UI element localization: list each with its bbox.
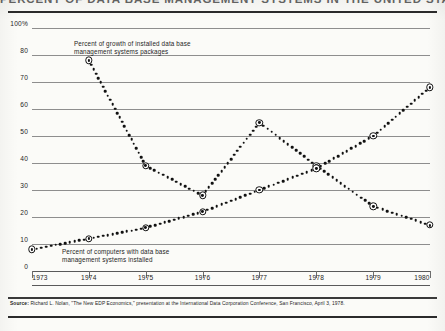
x-axis-label-1980: 1980: [414, 274, 429, 281]
gridline-40: [32, 163, 430, 164]
series-0-dot: [249, 133, 252, 136]
series-0-dot: [193, 190, 196, 193]
series-1-dot: [92, 236, 95, 239]
series-1-dot: [230, 200, 233, 203]
series-0-dot: [107, 94, 110, 97]
series-1-dot: [319, 165, 322, 168]
series-0-dot: [128, 134, 131, 137]
series-1-dot: [421, 93, 424, 96]
series-0-dot: [242, 141, 245, 144]
series-1-dot: [296, 174, 299, 177]
series-1-dot: [414, 99, 417, 102]
series-1-dot: [215, 205, 218, 208]
series-1-dot: [354, 145, 357, 148]
series-1-dot: [341, 152, 344, 155]
series-0-dot: [343, 185, 346, 188]
series-0-dot: [245, 137, 248, 140]
series-0-dot: [270, 130, 273, 133]
y-axis-label-70: 70: [20, 74, 28, 81]
series-1-dot: [187, 214, 190, 217]
series-0-dot: [116, 112, 119, 115]
series-0-dot: [90, 63, 93, 66]
series-1-dot: [402, 109, 405, 112]
series-0-dot: [223, 166, 226, 169]
x-axis-label-1977: 1977: [252, 274, 267, 281]
series-0-dot: [184, 185, 187, 188]
series-0-dot: [211, 182, 214, 185]
series-1-dot: [291, 176, 294, 179]
series-0-dot: [140, 156, 143, 159]
data-point-marker: [369, 132, 376, 139]
series-1-dot: [64, 242, 67, 245]
data-point-marker: [256, 186, 263, 193]
page-title: PERCENT OF DATA BASE MANAGEMENT SYSTEMS …: [0, 0, 445, 5]
y-axis-label-40: 40: [20, 155, 28, 162]
data-point-marker: [426, 84, 433, 91]
series-1-dot: [363, 140, 366, 143]
series-1-dot: [410, 102, 413, 105]
series-1-dot: [159, 222, 162, 225]
series-0-dot: [252, 129, 255, 132]
series-1-dot: [206, 209, 209, 212]
series-1-dot: [168, 220, 171, 223]
series-0-dot: [381, 208, 384, 211]
series-1-dot: [182, 216, 185, 219]
series-0-dot: [102, 85, 105, 88]
series-1-dot: [178, 217, 181, 220]
series-1-dot: [359, 142, 362, 145]
series-0-dot: [331, 176, 334, 179]
series-1-dot: [417, 96, 420, 99]
series-0-dot: [118, 116, 121, 119]
data-point-marker: [313, 165, 320, 172]
series-1-dot: [54, 244, 57, 247]
series-0-dot: [230, 158, 233, 161]
annotation-growth-series: Percent of growth of installed data base…: [74, 40, 191, 56]
x-axis-label-1978: 1978: [309, 274, 324, 281]
series-0-dot: [360, 196, 363, 199]
series-0-dot: [175, 180, 178, 183]
series-1-dot: [287, 178, 290, 181]
source-note: Source: Richard L. Nolan, "The New EDP E…: [10, 301, 345, 306]
series-1-dot: [277, 182, 280, 185]
series-0-dot: [217, 174, 220, 177]
series-0-dot: [95, 72, 98, 75]
series-1-dot: [306, 171, 309, 174]
series-0-dot: [214, 178, 217, 181]
data-point-marker: [142, 224, 149, 231]
series-1-dot: [346, 150, 349, 153]
series-0-dot: [282, 140, 285, 143]
x-axis-tick-1980: [430, 271, 431, 278]
series-0-dot: [327, 173, 330, 176]
series-0-dot: [410, 218, 413, 221]
series-1-dot: [268, 185, 271, 188]
series-1-dot: [59, 243, 62, 246]
series-1-dot: [40, 246, 43, 249]
plot-area: 01020304050607080100%: [32, 28, 430, 271]
series-0-dot: [236, 150, 239, 153]
series-1-dot: [73, 240, 76, 243]
series-0-dot: [396, 213, 399, 216]
series-1-dot: [282, 180, 285, 183]
series-0-dot: [278, 137, 281, 140]
y-axis-label-30: 30: [20, 182, 28, 189]
data-point-marker: [426, 221, 433, 228]
series-1-dot: [192, 213, 195, 216]
series-0-dot: [377, 206, 380, 209]
series-1-dot: [116, 232, 119, 235]
series-1-dot: [69, 241, 72, 244]
series-1-dot: [97, 236, 100, 239]
series-0-dot: [352, 190, 355, 193]
series-0-dot: [391, 211, 394, 214]
series-1-dot: [154, 224, 157, 227]
series-0-dot: [104, 90, 107, 93]
gridline-100: [32, 28, 430, 29]
series-1-dot: [107, 234, 110, 237]
series-0-dot: [137, 151, 140, 154]
data-point-marker: [85, 235, 92, 242]
series-1-dot: [149, 225, 152, 228]
series-0-dot: [419, 221, 422, 224]
series-0-dot: [99, 81, 102, 84]
x-axis-label-1974: 1974: [81, 274, 96, 281]
series-0-dot: [130, 138, 133, 141]
series-0-dot: [295, 149, 298, 152]
